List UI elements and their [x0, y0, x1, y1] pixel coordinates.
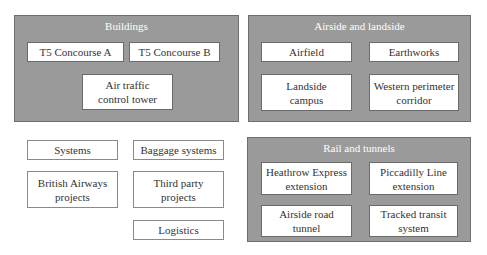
box-label: Landside campus — [277, 79, 337, 107]
box-label: Tracked transit system — [374, 207, 454, 235]
project-box-third-party: Third party projects — [133, 171, 224, 208]
box-label: Airside road tunnel — [269, 207, 344, 235]
project-box: T5 Concourse B — [129, 42, 220, 62]
project-box: Airside road tunnel — [261, 205, 352, 237]
box-label: Third party projects — [148, 176, 210, 204]
project-box-logistics: Logistics — [133, 220, 224, 240]
project-box: Western perimeter corridor — [369, 74, 459, 111]
group-title: Airside and landside — [249, 20, 470, 32]
group-title: Rail and tunnels — [248, 142, 470, 154]
project-box-baggage-systems: Baggage systems — [133, 140, 224, 160]
project-box: Airfield — [261, 42, 352, 62]
project-box-british-airways: British Airways projects — [27, 171, 118, 208]
project-box: T5 Concourse A — [27, 42, 124, 62]
box-label: Western perimeter corridor — [371, 79, 457, 107]
project-box-systems: Systems — [27, 140, 118, 160]
group-rail-tunnels: Rail and tunnels Heathrow Express extens… — [247, 137, 471, 242]
project-box: Landside campus — [261, 74, 352, 111]
project-box: Air traffic control tower — [82, 74, 173, 110]
group-airside-landside: Airside and landside Airfield Earthworks… — [248, 15, 471, 122]
box-label: Piccadilly Line extension — [374, 165, 454, 193]
box-label: Heathrow Express extension — [263, 165, 351, 193]
group-buildings: Buildings T5 Concourse A T5 Concourse B … — [14, 15, 239, 122]
project-box: Heathrow Express extension — [261, 162, 352, 195]
group-title: Buildings — [15, 20, 238, 32]
box-label: Air traffic control tower — [93, 78, 163, 106]
project-box: Earthworks — [369, 42, 459, 62]
project-box: Tracked transit system — [369, 205, 458, 237]
box-label: British Airways projects — [30, 176, 116, 204]
project-box: Piccadilly Line extension — [369, 162, 458, 195]
